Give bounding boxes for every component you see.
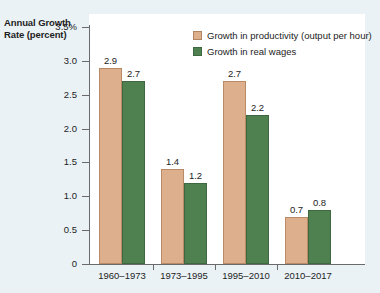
x-axis-category-label: 1995–2010 [211, 270, 281, 281]
bar [99, 68, 122, 264]
y-axis-tick-label: 3.5% [55, 21, 77, 32]
bar [246, 115, 269, 264]
y-axis-tick [82, 162, 90, 163]
y-axis-tick-label: 2.0 [64, 123, 77, 134]
y-axis-tick-label: 2.5 [64, 89, 77, 100]
legend-swatch-real-wages-icon [193, 47, 202, 56]
x-axis-line [89, 264, 365, 265]
bar-value-label: 2.7 [219, 68, 250, 79]
y-axis-tick [82, 61, 90, 62]
bar-value-label: 0.8 [304, 197, 335, 208]
y-axis-tick [82, 230, 90, 231]
bar-value-label: 1.2 [180, 170, 211, 181]
x-axis-category-label: 2010–2017 [273, 270, 343, 281]
y-axis-tick-label: 3.0 [64, 55, 77, 66]
bar [184, 183, 207, 264]
legend-item-real-wages: Growth in real wages [193, 44, 372, 58]
legend-label-real-wages: Growth in real wages [207, 46, 296, 57]
bar-chart: Annual Growth Rate (percent) 3.5%3.02.52… [0, 0, 380, 293]
bar-value-label: 1.4 [157, 156, 188, 167]
y-axis-tick [82, 196, 90, 197]
y-axis-tick-label: 1.5 [64, 156, 77, 167]
legend-item-productivity: Growth in productivity (output per hour) [193, 28, 372, 42]
legend-swatch-productivity-icon [193, 31, 202, 40]
bar-value-label: 2.9 [95, 55, 126, 66]
x-axis-category-label: 1960–1973 [87, 270, 157, 281]
bar [285, 217, 308, 264]
y-axis-tick [82, 264, 90, 265]
y-axis-tick [82, 95, 90, 96]
bar [161, 169, 184, 264]
bar [308, 210, 331, 264]
y-axis-tick-label: 0 [72, 258, 77, 269]
bar [122, 81, 145, 264]
legend: Growth in productivity (output per hour)… [193, 28, 372, 60]
x-axis-category-label: 1973–1995 [149, 270, 219, 281]
legend-label-productivity: Growth in productivity (output per hour) [207, 30, 372, 41]
y-axis-tick-label: 1.0 [64, 190, 77, 201]
bar-value-label: 2.7 [118, 68, 149, 79]
y-axis-tick [82, 129, 90, 130]
y-axis-tick-label: 0.5 [64, 224, 77, 235]
bar-value-label: 2.2 [242, 102, 273, 113]
y-axis-tick [82, 27, 90, 28]
